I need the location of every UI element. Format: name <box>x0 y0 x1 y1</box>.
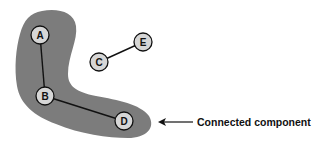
node-b-label: B <box>41 91 48 102</box>
node-e: E <box>134 33 152 51</box>
diagram-canvas: A B C D E Connected component <box>0 0 328 144</box>
node-d-label: D <box>120 116 127 127</box>
node-c: C <box>90 53 108 71</box>
node-a-label: A <box>36 30 43 41</box>
node-a: A <box>31 26 49 44</box>
node-b: B <box>36 87 54 105</box>
node-d: D <box>115 112 133 130</box>
annotation-label: Connected component <box>197 116 311 128</box>
annotation-arrow <box>158 118 193 126</box>
node-c-label: C <box>95 57 102 68</box>
node-e-label: E <box>140 37 147 48</box>
